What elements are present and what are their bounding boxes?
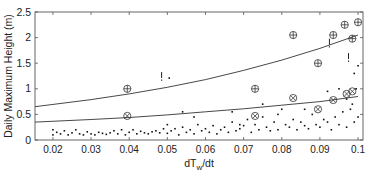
data-point	[262, 103, 264, 105]
x-tick-label: 0.08	[272, 144, 292, 155]
data-point	[125, 134, 127, 136]
x-tick-label: 0.03	[81, 144, 101, 155]
data-point	[292, 119, 294, 121]
x-tick-label: 0.07	[234, 144, 254, 155]
upper-curve	[35, 35, 358, 107]
data-point	[109, 132, 111, 134]
data-point	[285, 124, 287, 126]
data-point	[151, 131, 153, 133]
data-point	[327, 121, 329, 123]
data-point	[216, 133, 218, 135]
data-point	[235, 130, 237, 132]
data-point	[231, 111, 233, 113]
data-point	[56, 132, 58, 134]
circle-plus-marker	[314, 60, 321, 67]
data-point	[350, 108, 352, 110]
data-point	[304, 125, 306, 127]
data-point	[224, 126, 226, 128]
data-point	[254, 124, 256, 126]
envelope-curves	[35, 35, 358, 122]
data-point	[186, 132, 188, 134]
data-point	[250, 132, 252, 134]
data-point	[121, 129, 123, 131]
data-point	[311, 114, 313, 116]
data-point	[64, 130, 66, 132]
y-axis-ticks: 00.511.522.5	[16, 6, 363, 146]
data-point	[212, 125, 214, 127]
data-point	[338, 124, 340, 126]
data-point	[296, 129, 298, 131]
data-point	[277, 129, 279, 131]
data-point	[315, 124, 317, 126]
data-point	[178, 134, 180, 136]
y-axis-label: Daily Maximum Height (m)	[2, 14, 14, 138]
data-point	[193, 116, 195, 118]
data-point	[338, 88, 340, 90]
data-point	[90, 133, 92, 135]
data-point	[83, 134, 85, 136]
data-point	[140, 130, 142, 132]
data-point	[327, 91, 329, 93]
x-tick-label: 0.06	[196, 144, 216, 155]
x-tick-label: 0.02	[43, 144, 63, 155]
data-point	[357, 116, 359, 118]
circle-plus-marker	[251, 85, 258, 92]
data-point	[71, 132, 73, 134]
data-point	[239, 128, 241, 130]
data-point	[323, 119, 325, 121]
data-point	[168, 77, 170, 79]
data-point	[52, 134, 54, 136]
data-point	[352, 103, 354, 105]
data-point	[346, 126, 348, 128]
x-tick-label: 0.09	[310, 144, 330, 155]
highlighted-markers	[124, 19, 362, 120]
data-point	[86, 131, 88, 133]
data-point	[113, 130, 115, 132]
circle-plus-marker	[330, 31, 337, 38]
data-point	[60, 133, 62, 135]
data-point	[231, 121, 233, 123]
circle-x-marker	[349, 88, 356, 95]
data-point	[201, 130, 203, 132]
data-point	[300, 121, 302, 123]
x-tick-label: 0.1	[351, 144, 365, 155]
x-tick-label: 0.05	[158, 144, 178, 155]
circle-x-marker	[251, 112, 258, 119]
data-point	[239, 124, 241, 126]
data-point	[270, 130, 272, 132]
circle-plus-marker	[349, 35, 356, 42]
data-point	[75, 129, 77, 131]
data-point	[308, 128, 310, 130]
data-point	[163, 128, 165, 130]
data-point	[117, 133, 119, 135]
data-point	[144, 132, 146, 134]
exclamation-dot	[348, 61, 349, 62]
y-tick-label: 2.5	[16, 6, 31, 18]
data-point	[319, 126, 321, 128]
y-tick-label: 0.5	[16, 108, 31, 120]
circle-x-marker	[314, 106, 321, 113]
data-point	[136, 133, 138, 135]
data-point	[353, 73, 355, 75]
data-point	[258, 129, 260, 131]
data-point	[281, 108, 283, 110]
y-tick-label: 1.5	[16, 57, 31, 69]
data-point	[79, 133, 81, 135]
data-point	[94, 134, 96, 136]
data-point	[106, 134, 108, 136]
data-point	[182, 126, 184, 128]
circle-plus-marker	[354, 19, 361, 26]
data-point	[342, 111, 344, 113]
data-point	[159, 132, 161, 134]
x-tick-label: 0.04	[119, 144, 139, 155]
data-point	[273, 121, 275, 123]
x-axis-label: dTw/dt	[184, 157, 214, 172]
y-tick-label: 1	[25, 82, 31, 94]
data-point	[167, 124, 169, 126]
data-point	[334, 116, 336, 118]
data-point	[189, 129, 191, 131]
data-point	[357, 65, 359, 67]
y-tick-label: 2	[25, 31, 31, 43]
data-point	[128, 132, 130, 134]
data-point	[266, 126, 268, 128]
